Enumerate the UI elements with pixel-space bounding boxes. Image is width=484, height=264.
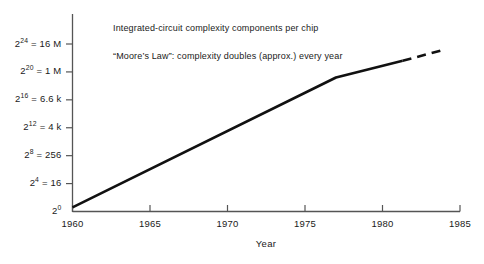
y-tick-exponent: 20 — [26, 64, 34, 71]
y-tick-label: 24 = 16 — [0, 177, 62, 188]
y-tick-exponent: 12 — [29, 120, 37, 127]
y-axis-ticks — [66, 44, 73, 184]
y-tick-exponent: 24 — [20, 36, 28, 43]
y-tick-value: = 16 — [39, 177, 61, 188]
y-tick-value: = 6.6 k — [28, 93, 61, 104]
y-tick-exponent: 0 — [58, 204, 62, 211]
annotation-line-2: “Moore’s Law”: complexity doubles (appro… — [113, 51, 343, 61]
x-tick-label: 1975 — [275, 218, 335, 229]
y-tick-value: = 1 M — [34, 65, 62, 76]
annotation-line-1: Integrated-circuit complexity components… — [113, 23, 318, 33]
y-tick-label: 216 = 6.6 k — [0, 93, 62, 104]
y-tick-value: = 16 M — [28, 38, 61, 49]
x-axis-ticks — [73, 205, 461, 212]
moores-law-chart: 224 = 16 M220 = 1 M216 = 6.6 k212 = 4 k2… — [0, 0, 484, 264]
x-tick-label: 1965 — [120, 218, 180, 229]
y-tick-label: 212 = 4 k — [0, 121, 62, 132]
x-tick-label: 1980 — [353, 218, 413, 229]
y-tick-label: 20 — [0, 205, 62, 216]
y-tick-value: = 4 k — [37, 121, 62, 132]
series-complexity-solid — [73, 61, 403, 208]
series-complexity-projected — [403, 50, 445, 61]
y-tick-label: 220 = 1 M — [0, 65, 62, 76]
chart-series — [73, 50, 445, 208]
y-tick-label: 28 = 256 — [0, 149, 62, 160]
x-axis-title: Year — [206, 238, 326, 249]
y-tick-label: 224 = 16 M — [0, 38, 62, 49]
x-tick-label: 1970 — [198, 218, 258, 229]
y-tick-value: = 256 — [34, 149, 62, 160]
x-tick-label: 1985 — [430, 218, 484, 229]
x-tick-label: 1960 — [43, 218, 103, 229]
